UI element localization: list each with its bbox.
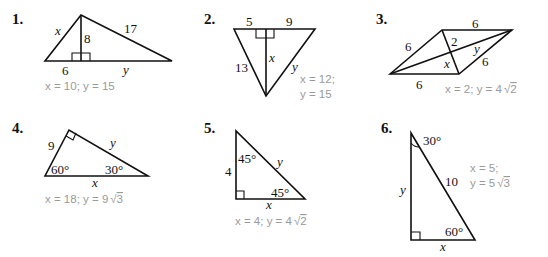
label-angle-left: 60° — [51, 162, 69, 177]
answer-line-1: x = 12; — [300, 73, 335, 85]
problem-number: 6. — [381, 120, 393, 136]
problem-number: 1. — [12, 11, 24, 27]
label-half-long-diagonal: y — [472, 41, 480, 56]
triangle — [411, 133, 475, 240]
problem-sheet: 1. x 8 17 6 y x = 10; y = 15 2. 5 9 13 x… — [0, 0, 548, 257]
label-base: x — [265, 197, 272, 212]
label-altitude: 8 — [84, 31, 91, 46]
right-angle-mark — [411, 232, 420, 240]
label-base-right: y — [121, 62, 129, 77]
label-half-short-diagonal: 2 — [451, 34, 458, 49]
problem-number: 5. — [204, 120, 216, 136]
problem-1: 1. x 8 17 6 y x = 10; y = 15 — [12, 11, 172, 92]
label-top-left: 5 — [246, 14, 253, 29]
problem-6: 6. 30° 10 y 60° x x = 5; y = 5√3 — [381, 120, 510, 254]
answer: x = 10; y = 15 — [45, 80, 115, 92]
label-angle-right: 30° — [105, 162, 123, 177]
answer-line-2: y = 5√3 — [470, 177, 510, 189]
label-angle-right: 45° — [271, 185, 289, 200]
label-altitude: x — [268, 50, 275, 65]
label-lower-right: 6 — [482, 54, 489, 69]
label-base-left: 6 — [62, 63, 69, 78]
label-leg: y — [398, 182, 406, 197]
answer: x = 2; y = 4√2 — [445, 83, 517, 95]
label-side-left: 13 — [235, 60, 248, 75]
right-angle-mark — [256, 29, 274, 38]
label-angle-top: 45° — [238, 151, 256, 166]
label-leg: 9 — [48, 138, 55, 153]
label-top-right: 9 — [286, 14, 293, 29]
label-upper-left: 6 — [405, 39, 412, 54]
answer: x = 4; y = 4√2 — [235, 215, 307, 227]
triangle — [45, 15, 172, 61]
answer-line-1: x = 5; — [470, 162, 498, 174]
problem-4: 4. 9 y 60° 30° x x = 18; y = 9√3 — [12, 120, 148, 205]
label-side-left: x — [54, 23, 61, 38]
label-top: 6 — [472, 16, 479, 31]
problem-number: 3. — [376, 11, 388, 27]
problem-number: 2. — [204, 11, 216, 27]
label-angle-right: 60° — [445, 224, 463, 239]
answer-line-2: y = 15 — [300, 88, 332, 100]
problem-3: 3. 6 6 2 y 6 x 6 x = 2; y = 4√2 — [376, 11, 517, 95]
label-hypotenuse: y — [275, 154, 283, 169]
problem-2: 2. 5 9 13 x y x = 12; y = 15 — [204, 11, 335, 100]
problem-number: 4. — [12, 120, 24, 136]
label-bottom: 6 — [416, 77, 423, 92]
label-leg: 4 — [225, 164, 232, 179]
label-angle-top: 30° — [423, 133, 441, 148]
label-hypotenuse: 10 — [445, 174, 458, 189]
label-base: x — [91, 175, 98, 190]
label-x: x — [443, 56, 450, 71]
right-angle-mark — [236, 191, 244, 199]
problem-5: 5. 45° y 4 45° x x = 4; y = 4√2 — [204, 120, 307, 227]
label-hypotenuse-leg: y — [108, 135, 116, 150]
label-side-right: y — [290, 59, 298, 74]
label-base: x — [439, 239, 446, 254]
answer: x = 18; y = 9√3 — [45, 193, 123, 205]
label-side-right: 17 — [124, 21, 138, 36]
